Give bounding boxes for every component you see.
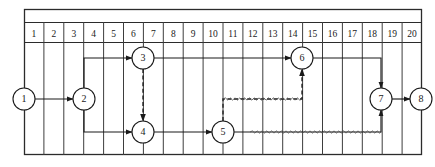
node-label-8: 8 bbox=[419, 93, 424, 104]
time-scaled-network-diagram: 123456789101112131415161718192012345678 bbox=[0, 0, 435, 167]
timescale-tick-13: 13 bbox=[268, 29, 278, 39]
timescale-tick-16: 16 bbox=[328, 29, 338, 39]
timescale-tick-19: 19 bbox=[387, 29, 397, 39]
node-label-5: 5 bbox=[221, 126, 226, 137]
timescale-tick-14: 14 bbox=[288, 29, 298, 39]
timescale-tick-11: 11 bbox=[228, 29, 237, 39]
timescale-tick-9: 9 bbox=[191, 29, 196, 39]
timescale-tick-15: 15 bbox=[308, 29, 318, 39]
diagram-canvas: 123456789101112131415161718192012345678 bbox=[0, 0, 435, 167]
node-label-3: 3 bbox=[141, 52, 146, 63]
timescale-tick-2: 2 bbox=[51, 29, 56, 39]
timescale-tick-3: 3 bbox=[71, 29, 76, 39]
timescale-tick-5: 5 bbox=[111, 29, 116, 39]
node-label-7: 7 bbox=[379, 93, 384, 104]
node-label-4: 4 bbox=[141, 126, 146, 137]
activity-a-2-3 bbox=[84, 58, 132, 88]
timescale-tick-20: 20 bbox=[407, 29, 417, 39]
timescale-tick-12: 12 bbox=[248, 29, 258, 39]
timescale-tick-6: 6 bbox=[131, 29, 136, 39]
timescale-tick-7: 7 bbox=[151, 29, 156, 39]
activity-a-6-7 bbox=[313, 58, 381, 88]
timescale-tick-18: 18 bbox=[368, 29, 378, 39]
timescale-tick-10: 10 bbox=[208, 29, 218, 39]
node-label-6: 6 bbox=[300, 52, 305, 63]
node-label-2: 2 bbox=[82, 93, 87, 104]
activity-a-2-4 bbox=[84, 110, 132, 132]
timescale-tick-1: 1 bbox=[32, 29, 37, 39]
activity-a-5-7 bbox=[234, 110, 381, 132]
timescale-tick-17: 17 bbox=[348, 29, 358, 39]
timescale-tick-8: 8 bbox=[171, 29, 176, 39]
timescale-tick-4: 4 bbox=[91, 29, 96, 39]
node-label-1: 1 bbox=[22, 93, 27, 104]
